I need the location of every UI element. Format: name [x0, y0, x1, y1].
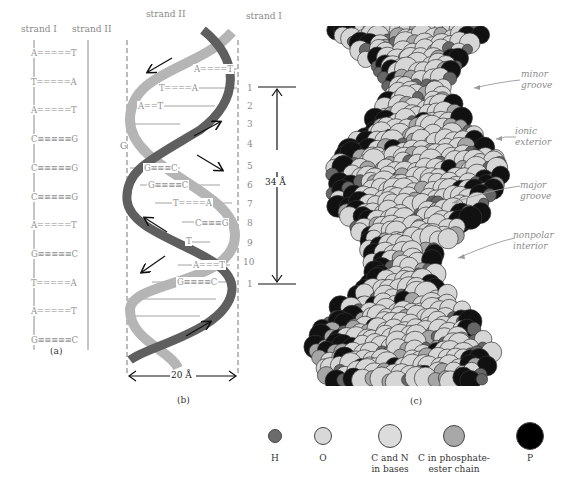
annotation-line: major	[520, 180, 551, 191]
annotation-line: exterior	[515, 137, 551, 148]
legend-label-line: P	[485, 453, 575, 464]
annotation-line: nonpolar	[513, 230, 554, 241]
hydrogen-atom-swatch-icon	[268, 429, 282, 443]
carbon-nitrogen-bases-atom-swatch-icon	[378, 424, 402, 448]
oxygen-atom-swatch-icon	[314, 427, 332, 445]
annotation-line: ionic	[515, 126, 551, 137]
annotation-line: groove	[520, 191, 551, 202]
annotation-ionic-exterior: ionic exterior	[515, 126, 551, 148]
annotation-major-groove: major groove	[520, 180, 551, 202]
panel-c-caption: (c)	[410, 396, 422, 406]
annotation-nonpolar-interior: nonpolar interior	[513, 230, 554, 252]
annotation-line: interior	[513, 241, 554, 252]
phosphorus-atom-swatch-icon	[516, 422, 544, 450]
annotation-arrows	[0, 0, 576, 485]
legend-label-line: ester chain	[409, 464, 499, 475]
carbon-phosphate-ester-atom-swatch-icon	[443, 425, 465, 447]
annotation-line: minor	[521, 69, 552, 80]
legend-label-phosphorus: P	[485, 453, 575, 464]
annotation-minor-groove: minor groove	[521, 69, 552, 91]
annotation-line: groove	[521, 80, 552, 91]
